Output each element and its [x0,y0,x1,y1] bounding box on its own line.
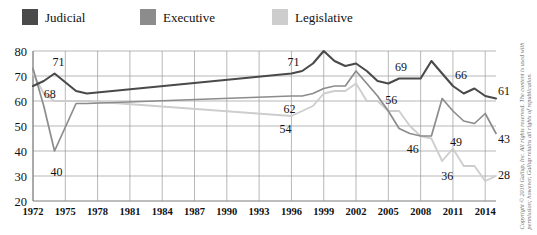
y-axis-tick-30: 30 [15,170,28,184]
data-label-judicial-69: 69 [395,60,407,74]
x-axis-tick-2005: 2005 [378,206,399,217]
legend-swatch-icon [22,9,38,25]
x-axis-tick-1996: 1996 [281,206,302,217]
legend-item-executive[interactable]: Executive [140,8,215,26]
y-axis-tick-60: 60 [15,95,28,109]
data-label-judicial-66: 66 [455,68,467,82]
data-label-judicial-68: 68 [44,87,56,101]
series-line-executive [33,69,496,152]
x-axis-tick-1993: 1993 [249,206,270,217]
legend-label-executive: Executive [163,11,215,24]
x-axis-tick-2008: 2008 [410,206,431,217]
x-axis-tick-1987: 1987 [184,206,205,217]
legend-item-judicial[interactable]: Judicial [22,8,85,26]
series-line-judicial [33,51,496,99]
x-axis-tick-1975: 1975 [55,206,76,217]
y-axis-tick-70: 70 [15,70,28,84]
x-axis-tick-1999: 1999 [313,206,334,217]
legend-swatch-icon [140,9,156,25]
data-label-legislative-36: 36 [441,169,453,183]
copyright-text: Copyright © 2019 Gallup, Inc. All rights… [518,17,533,229]
chart-legend: Judicial Executive Legislative [0,0,510,34]
x-axis-tick-2011: 2011 [443,206,463,217]
x-axis-tick-2002: 2002 [346,206,367,217]
y-axis-tick-50: 50 [15,120,28,134]
data-label-judicial-71: 71 [287,55,299,69]
legend-item-legislative[interactable]: Legislative [272,8,353,26]
data-label-executive-43: 43 [498,132,510,146]
data-label-executive-46: 46 [407,142,419,156]
legend-label-judicial: Judicial [45,11,85,24]
y-axis-tick-80: 80 [15,45,28,59]
data-label-executive-49: 49 [450,135,462,149]
x-axis-tick-1981: 1981 [119,206,140,217]
data-label-legislative-28: 28 [498,168,510,182]
x-axis-tick-1990: 1990 [216,206,237,217]
y-axis-tick-40: 40 [15,145,28,159]
x-axis-tick-1972: 1972 [23,206,44,217]
chart-plot-area: 2030405060708019721975197819811984198719… [0,38,510,235]
x-axis-tick-1978: 1978 [87,206,108,217]
data-label-legislative-54: 54 [279,122,291,136]
data-label-executive-62: 62 [283,102,295,116]
data-label-judicial-71: 71 [53,55,65,69]
x-axis-tick-2014: 2014 [475,206,497,217]
series-line-legislative [33,74,496,182]
chart-screenshot: Judicial Executive Legislative 203040506… [0,0,537,235]
x-axis-tick-1984: 1984 [152,206,174,217]
data-label-executive-40: 40 [51,165,63,179]
data-label-judicial-61: 61 [498,84,510,98]
line-chart: 2030405060708019721975197819811984198719… [0,38,510,235]
copyright-notice: Copyright © 2019 Gallup, Inc. All rights… [511,18,537,233]
legend-swatch-icon [272,9,288,25]
data-label-executive-56: 56 [385,93,397,107]
legend-label-legislative: Legislative [295,11,353,24]
